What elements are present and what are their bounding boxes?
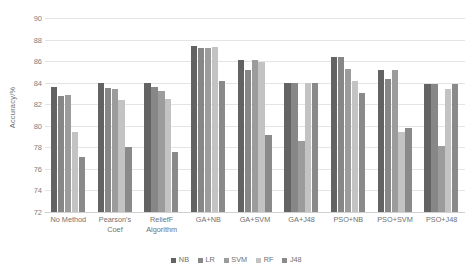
bar	[158, 91, 164, 212]
bar	[79, 157, 85, 212]
bar	[378, 70, 384, 212]
bar-group	[45, 18, 92, 212]
legend-item[interactable]: LR	[198, 256, 215, 264]
y-axis-tick-label: 88	[22, 35, 42, 44]
plot-area	[45, 18, 465, 212]
x-axis-tick-label: PSO+SVM	[372, 215, 419, 225]
x-axis-tick-label: PSO+J48	[418, 215, 465, 225]
legend-swatch-icon	[282, 258, 287, 263]
bar	[392, 70, 398, 212]
bar-group	[185, 18, 232, 212]
bar	[385, 79, 391, 212]
bar	[205, 48, 211, 212]
bar	[359, 93, 365, 212]
y-axis-tick-label: 90	[22, 14, 42, 23]
bar	[438, 146, 444, 212]
bar	[305, 83, 311, 212]
x-axis-tick-label: GA+NB	[185, 215, 232, 225]
y-axis-tick-label: 74	[22, 186, 42, 195]
bar	[65, 95, 71, 212]
legend-swatch-icon	[256, 258, 261, 263]
bar	[431, 84, 437, 212]
bar	[105, 88, 111, 212]
y-axis-tick-label: 76	[22, 164, 42, 173]
y-axis-tick-label: 84	[22, 78, 42, 87]
bar	[265, 135, 271, 212]
bar	[191, 46, 197, 212]
bar	[245, 70, 251, 212]
bar-group	[138, 18, 185, 212]
legend-label: NB	[179, 256, 189, 264]
bar	[144, 83, 150, 212]
bar-group	[278, 18, 325, 212]
x-axis-tick-label: PSO+NB	[325, 215, 372, 225]
legend-swatch-icon	[224, 258, 229, 263]
bar	[291, 83, 297, 212]
bar	[345, 69, 351, 212]
bar	[165, 99, 171, 212]
bar	[312, 83, 318, 212]
x-axis-tick-label: GA+J48	[278, 215, 325, 225]
bar	[445, 89, 451, 212]
legend-item[interactable]: SVM	[224, 256, 247, 264]
x-axis-tick-labels: No MethodPearson's CoefReliefF Algorithm…	[45, 215, 465, 249]
x-axis-tick-label: No Method	[45, 215, 92, 225]
bar	[352, 81, 358, 212]
bar	[172, 152, 178, 212]
legend-label: LR	[206, 256, 215, 264]
legend-swatch-icon	[198, 258, 203, 263]
bar	[258, 62, 264, 212]
y-axis-tick-label: 78	[22, 143, 42, 152]
bar	[238, 60, 244, 212]
bar-group	[325, 18, 372, 212]
bar	[398, 132, 404, 212]
bar	[51, 87, 57, 212]
legend-label: RF	[264, 256, 274, 264]
legend-item[interactable]: J48	[282, 256, 301, 264]
bar-group	[232, 18, 279, 212]
bar	[298, 141, 304, 212]
legend-swatch-icon	[171, 258, 176, 263]
x-axis-tick-label: Pearson's Coef	[92, 215, 139, 235]
legend-item[interactable]: NB	[171, 256, 189, 264]
bar	[98, 83, 104, 212]
legend-label: J48	[290, 256, 302, 264]
chart-legend: NBLRSVMRFJ48	[0, 256, 473, 264]
bar	[252, 60, 258, 212]
bar	[72, 132, 78, 212]
bar	[198, 48, 204, 212]
bar	[125, 147, 131, 212]
bar-group	[372, 18, 419, 212]
bar	[284, 83, 290, 212]
bar	[338, 57, 344, 212]
bars-layer	[45, 18, 465, 212]
bar-chart: Accuracy/% 72747678808284868890 No Metho…	[0, 0, 473, 279]
legend-item[interactable]: RF	[256, 256, 273, 264]
bar	[405, 128, 411, 212]
bar	[112, 89, 118, 212]
y-axis-tick-label: 86	[22, 57, 42, 66]
bar-group	[418, 18, 465, 212]
bar	[212, 47, 218, 212]
legend-label: SVM	[231, 256, 247, 264]
bar	[151, 87, 157, 212]
y-axis-tick-label: 72	[22, 208, 42, 217]
y-axis-title-text: Accuracy/%	[9, 87, 18, 129]
bar	[219, 81, 225, 212]
bar-group	[92, 18, 139, 212]
bar	[452, 84, 458, 212]
x-axis-tick-label: GA+SVM	[232, 215, 279, 225]
y-axis-tick-labels: 72747678808284868890	[18, 18, 42, 212]
x-axis-line	[45, 212, 465, 213]
y-axis-tick-label: 80	[22, 121, 42, 130]
bar	[331, 57, 337, 212]
bar	[424, 84, 430, 212]
y-axis-tick-label: 82	[22, 100, 42, 109]
bar	[118, 100, 124, 212]
bar	[58, 96, 64, 212]
x-axis-tick-label: ReliefF Algorithm	[138, 215, 185, 235]
